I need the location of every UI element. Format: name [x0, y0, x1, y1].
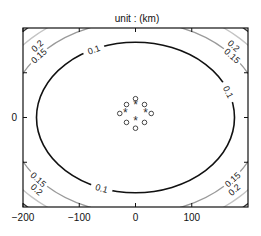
- y-axis: 0: [11, 73, 248, 163]
- contour-label: 0.1: [94, 182, 109, 195]
- circle-marker: [142, 120, 147, 125]
- x-tick-label: −100: [68, 212, 91, 223]
- star-marker: *: [133, 98, 138, 112]
- x-tick-label: 0: [133, 212, 139, 223]
- x-tick-label: −200: [12, 212, 35, 223]
- circle-marker: [117, 111, 122, 116]
- circle-marker: [124, 120, 129, 125]
- chart-title: unit : (km): [115, 13, 159, 24]
- contour-0.25: [0, 0, 261, 236]
- x-tick-label: 100: [183, 212, 200, 223]
- contour-chart: unit : (km) 0.10.10.10.150.150.150.150.2…: [0, 0, 261, 236]
- circle-marker: [149, 111, 154, 116]
- star-marker: *: [143, 106, 148, 120]
- star-marker: *: [133, 114, 138, 128]
- y-tick-label: 0: [11, 112, 17, 123]
- markers: ****: [117, 96, 153, 130]
- contour-lines: [0, 0, 261, 236]
- star-marker: *: [123, 106, 128, 120]
